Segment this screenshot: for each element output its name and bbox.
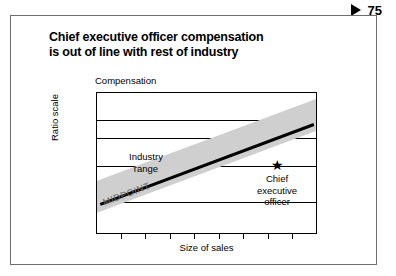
x-axis-tick bbox=[194, 234, 195, 239]
industry-range-label: Industry range bbox=[113, 151, 179, 174]
x-axis-tick bbox=[268, 234, 269, 239]
x-axis-tick bbox=[292, 234, 293, 239]
star-icon: ★ bbox=[245, 159, 309, 172]
x-axis-tick bbox=[121, 234, 122, 239]
ceo-label-line-3: officer bbox=[245, 196, 309, 208]
plot-area: MIDPOINT Industry range ★ Chief executiv… bbox=[96, 92, 317, 234]
industry-range-label-line-2: range bbox=[113, 163, 179, 175]
chief-executive-officer-marker: ★ Chief executive officer bbox=[245, 159, 309, 208]
x-axis-tick bbox=[243, 234, 244, 239]
x-axis-tick bbox=[170, 234, 171, 239]
y-axis-scale-label: Ratio scale bbox=[49, 73, 60, 163]
exhibit-frame: Chief executive officer compensation is … bbox=[10, 15, 377, 265]
x-axis-tick bbox=[219, 234, 220, 239]
industry-range-label-line-1: Industry bbox=[113, 151, 179, 163]
x-axis-tick bbox=[145, 234, 146, 239]
x-axis-ticks bbox=[96, 234, 317, 239]
ceo-label-line-2: executive bbox=[245, 185, 309, 197]
y-axis-title: Compensation bbox=[95, 75, 156, 86]
ceo-label-line-1: Chief bbox=[245, 173, 309, 185]
x-axis-title: Size of sales bbox=[96, 242, 317, 253]
chief-executive-officer-label: Chief executive officer bbox=[245, 173, 309, 208]
chart: Compensation Ratio scale MIDPOINT Indust… bbox=[11, 16, 378, 266]
